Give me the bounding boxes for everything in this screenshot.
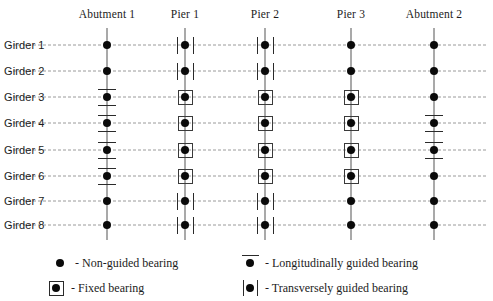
bearing-dot: [103, 119, 111, 127]
bearing-pier-2-girder-6: [253, 164, 277, 188]
bearing-dot: [347, 146, 355, 154]
bearing-dot: [261, 119, 269, 127]
guide-bar-right: [273, 193, 274, 210]
guide-bar-top: [98, 115, 116, 116]
girder-line: [8, 71, 486, 72]
bearing-abutment-2-girder-1: [422, 33, 446, 57]
bearing-dot: [430, 67, 438, 75]
guide-bar-top: [242, 255, 259, 256]
guide-bar-right: [193, 37, 194, 54]
bearing-pier-1-girder-1: [173, 33, 197, 57]
bearing-dot: [430, 172, 438, 180]
bearing-dot: [261, 146, 269, 154]
bearing-dot: [181, 146, 189, 154]
bearing-pier-3-girder-1: [339, 33, 363, 57]
bearing-abutment-1-girder-3: [95, 85, 119, 109]
bearing-dot: [430, 221, 438, 229]
guide-bar-right: [257, 280, 258, 296]
bearing-dot: [261, 221, 269, 229]
bearing-abutment-2-girder-7: [422, 189, 446, 213]
row-label-girder-6: Girder 6: [4, 170, 45, 182]
guide-bar-bottom: [98, 158, 116, 159]
bearing-abutment-2-girder-2: [422, 59, 446, 83]
legend-label-longitudinal: - Longitudinally guided bearing: [265, 256, 418, 271]
bearing-dot: [347, 119, 355, 127]
bearing-dot: [103, 197, 111, 205]
row-label-girder-7: Girder 7: [4, 195, 45, 207]
bearing-abutment-1-girder-7: [95, 189, 119, 213]
bearing-dot: [103, 67, 111, 75]
guide-bar-bottom: [98, 131, 116, 132]
guide-bar-left: [257, 37, 258, 54]
bearing-pier-3-girder-5: [339, 138, 363, 162]
bearing-dot: [430, 146, 438, 154]
bearing-pier-2-girder-2: [253, 59, 277, 83]
bearing-abutment-1-girder-4: [95, 111, 119, 135]
guide-bar-bottom: [98, 184, 116, 185]
girder-line: [8, 225, 486, 226]
legend-item-non-guided: - Non-guided bearing: [48, 252, 178, 274]
bearing-dot: [181, 119, 189, 127]
bearing-dot: [261, 67, 269, 75]
bearing-dot: [103, 221, 111, 229]
girder-line: [8, 176, 486, 177]
bearing-dot: [246, 284, 254, 292]
bearing-dot: [347, 172, 355, 180]
bearing-pier-1-girder-6: [173, 164, 197, 188]
guide-bar-right: [193, 63, 194, 80]
guide-bar-left: [177, 193, 178, 210]
guide-bar-left: [257, 63, 258, 80]
bearing-pier-3-girder-2: [339, 59, 363, 83]
bearing-dot: [181, 221, 189, 229]
bearing-dot: [430, 119, 438, 127]
legend-symbol-longitudinal-icon: [238, 252, 262, 274]
bearing-pier-3-girder-8: [339, 213, 363, 237]
bearing-dot: [181, 41, 189, 49]
guide-bar-bottom: [425, 131, 443, 132]
guide-bar-right: [193, 217, 194, 234]
bearing-pier-1-girder-5: [173, 138, 197, 162]
legend-label-fixed: - Fixed bearing: [71, 281, 144, 296]
bearing-pier-1-girder-8: [173, 213, 197, 237]
guide-bar-left: [243, 280, 244, 296]
legend-label-transverse: - Transversely guided bearing: [265, 281, 408, 296]
bearing-dot: [261, 93, 269, 101]
row-label-girder-2: Girder 2: [4, 65, 45, 77]
bearing-dot: [56, 259, 64, 267]
guide-bar-bottom: [425, 158, 443, 159]
guide-bar-top: [425, 115, 443, 116]
bearing-pier-1-girder-7: [173, 189, 197, 213]
bearing-dot: [430, 93, 438, 101]
row-label-girder-8: Girder 8: [4, 219, 45, 231]
guide-bar-left: [177, 217, 178, 234]
bearing-dot: [347, 93, 355, 101]
row-label-girder-1: Girder 1: [4, 39, 45, 51]
legend-symbol-non-guided-icon: [48, 252, 72, 274]
bearing-abutment-1-girder-2: [95, 59, 119, 83]
guide-bar-left: [257, 193, 258, 210]
girder-line: [8, 201, 486, 202]
girder-line: [8, 150, 486, 151]
bearing-abutment-1-girder-6: [95, 164, 119, 188]
guide-bar-left: [177, 37, 178, 54]
girder-line: [8, 97, 486, 98]
bearing-abutment-1-girder-8: [95, 213, 119, 237]
legend-item-longitudinal: - Longitudinally guided bearing: [238, 252, 418, 274]
bearing-dot: [103, 172, 111, 180]
bearing-pier-2-girder-4: [253, 111, 277, 135]
bearing-dot: [246, 259, 254, 267]
bearing-dot: [103, 41, 111, 49]
column-header-abutment-2: Abutment 2: [406, 8, 463, 20]
bearing-dot: [347, 67, 355, 75]
bearing-pier-3-girder-6: [339, 164, 363, 188]
bearing-pier-1-girder-3: [173, 85, 197, 109]
guide-bar-top: [98, 168, 116, 169]
bearing-abutment-2-girder-6: [422, 164, 446, 188]
guide-bar-right: [273, 63, 274, 80]
row-label-girder-5: Girder 5: [4, 144, 45, 156]
bearing-abutment-2-girder-3: [422, 85, 446, 109]
bearing-pier-1-girder-4: [173, 111, 197, 135]
bearing-dot: [430, 197, 438, 205]
bearing-pier-3-girder-4: [339, 111, 363, 135]
bearing-pier-1-girder-2: [173, 59, 197, 83]
